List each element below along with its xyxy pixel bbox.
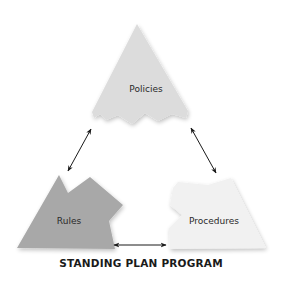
diagram-title: STANDING PLAN PROGRAM: [0, 257, 282, 269]
arrow-policies-rules: [68, 129, 91, 171]
standing-plan-diagram: Policies Rules Procedures: [0, 0, 282, 283]
procedures-shape: [169, 178, 266, 249]
procedures-node: Procedures: [169, 178, 266, 249]
arrow-policies-procedures: [191, 128, 216, 173]
policies-node: Policies: [92, 24, 188, 124]
rules-label: Rules: [57, 216, 82, 226]
policies-label: Policies: [129, 84, 163, 94]
rules-shape: [17, 175, 123, 249]
policies-shape: [92, 24, 188, 124]
rules-node: Rules: [17, 175, 123, 249]
procedures-label: Procedures: [189, 216, 239, 226]
